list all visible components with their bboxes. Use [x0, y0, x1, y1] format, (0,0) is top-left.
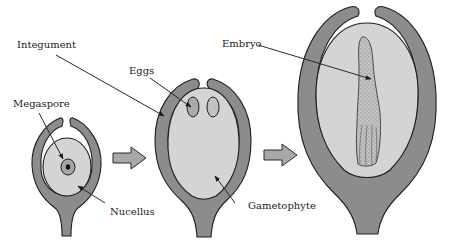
diagram-canvas: Integument Megaspore Nucellus Eggs Gamet… [0, 0, 450, 248]
ovule-development-diagram: Integument Megaspore Nucellus Eggs Gamet… [0, 0, 450, 248]
stage-2-egg-1 [187, 97, 199, 117]
stage-1-ovule [32, 118, 101, 236]
stage-1-megaspore-nucleus [66, 164, 70, 170]
progress-arrow-2 [264, 144, 297, 166]
stage-2-gametophyte [168, 88, 239, 199]
label-eggs: Eggs [129, 65, 154, 76]
label-embryo: Embryo [222, 38, 262, 49]
label-megaspore: Megaspore [13, 98, 70, 109]
stage-3-ovule [298, 7, 436, 234]
stage-2-egg-2 [207, 97, 219, 117]
label-nucellus: Nucellus [110, 206, 155, 217]
progress-arrow-1 [113, 147, 146, 169]
label-gametophyte: Gametophyte [248, 200, 316, 211]
stage-2-ovule [155, 79, 251, 237]
label-integument: Integument [17, 39, 76, 50]
